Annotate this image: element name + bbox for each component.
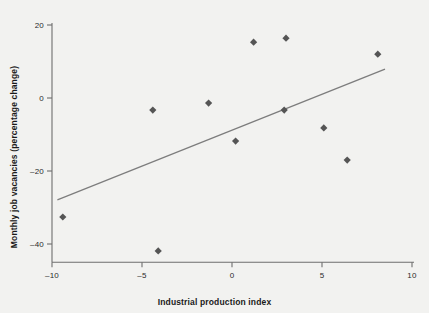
data-point-marker — [149, 106, 156, 113]
y-tick-label: –40 — [22, 240, 44, 249]
x-tick-label: 0 — [230, 271, 235, 280]
data-point-marker — [155, 247, 162, 254]
scatter-chart: 200–20–40–10–50510 Monthly job vacancies… — [0, 0, 429, 313]
data-point-marker — [374, 51, 381, 58]
y-tick-label: –20 — [22, 167, 44, 176]
y-axis-title: Monthly job vacancies (percentage change… — [9, 65, 19, 247]
data-point-marker — [282, 35, 289, 42]
data-point-marker — [250, 39, 257, 46]
data-point-marker — [205, 100, 212, 107]
axes — [47, 23, 414, 267]
data-points — [59, 35, 381, 255]
x-tick-label: –5 — [137, 271, 146, 280]
x-tick-label: 5 — [320, 271, 325, 280]
trendline-path — [57, 69, 385, 200]
y-tick-label: 20 — [22, 21, 44, 30]
x-tick-label: –10 — [45, 271, 59, 280]
y-tick-label: 0 — [22, 94, 44, 103]
x-tick-label: 10 — [407, 271, 416, 280]
plot-area — [0, 0, 429, 313]
data-point-marker — [344, 156, 351, 163]
trendline — [57, 69, 385, 200]
data-point-marker — [59, 213, 66, 220]
data-point-marker — [320, 124, 327, 131]
x-axis-title: Industrial production index — [0, 297, 429, 307]
data-point-marker — [281, 106, 288, 113]
data-point-marker — [232, 137, 239, 144]
